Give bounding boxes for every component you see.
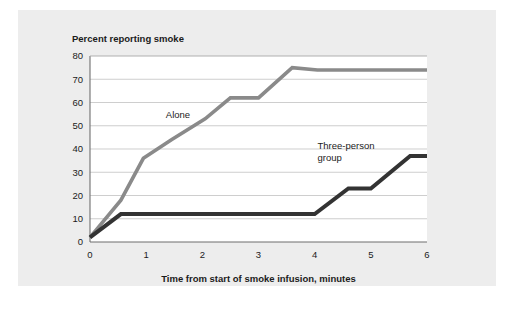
x-tick-label: 2 (200, 249, 205, 260)
y-tick-labels: 01020304050607080 (72, 50, 83, 247)
x-tick-label: 4 (312, 249, 317, 260)
x-tick-label: 5 (368, 249, 373, 260)
line-chart: 01020304050607080 0123456 AloneThree-per… (18, 10, 496, 286)
x-tick-label: 6 (424, 249, 429, 260)
y-tick-label: 60 (72, 97, 83, 108)
series-label-three-person-group: Three-person (317, 140, 374, 151)
y-tick-label: 40 (72, 143, 83, 154)
series-label-three-person-group: group (317, 152, 341, 163)
y-tick-label: 80 (72, 50, 83, 61)
x-axis-title: Time from start of smoke infusion, minut… (161, 273, 356, 284)
series-label-alone: Alone (166, 109, 190, 120)
y-tick-label: 20 (72, 190, 83, 201)
figure-root: 01020304050607080 0123456 AloneThree-per… (0, 0, 520, 312)
x-tick-label: 3 (256, 249, 261, 260)
chart-panel: 01020304050607080 0123456 AloneThree-per… (18, 10, 496, 286)
chart-title: Percent reporting smoke (72, 33, 184, 44)
y-tick-label: 0 (78, 236, 83, 247)
y-tick-label: 10 (72, 213, 83, 224)
y-tick-label: 30 (72, 167, 83, 178)
y-tick-label: 70 (72, 74, 83, 85)
x-tick-labels: 0123456 (87, 249, 429, 260)
x-tick-label: 1 (144, 249, 149, 260)
y-tick-label: 50 (72, 120, 83, 131)
x-tick-label: 0 (87, 249, 92, 260)
